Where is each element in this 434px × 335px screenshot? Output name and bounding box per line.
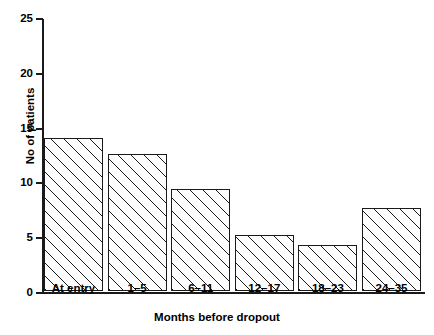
y-tick-label: 5 [27, 231, 33, 243]
plot-area: 0510152025 [42, 19, 425, 293]
y-tick-mark [36, 128, 43, 130]
y-tick-mark [36, 182, 43, 184]
bar-chart-figure: No of patients 0510152025 At entry1–56–1… [0, 0, 434, 335]
x-tick-label-2: 6–11 [165, 282, 236, 294]
bar-2 [171, 189, 230, 291]
y-tick-label: 15 [20, 122, 33, 134]
bar-1 [108, 154, 167, 291]
y-tick-mark [36, 18, 43, 20]
x-tick-label-0: At entry [38, 282, 109, 294]
bar-5 [362, 208, 421, 291]
x-axis-title: Months before dropout [0, 311, 434, 323]
bar-0 [44, 138, 103, 291]
x-tick-label-3: 12–17 [229, 282, 300, 294]
y-tick-mark [36, 237, 43, 239]
y-tick-label: 0 [27, 286, 33, 298]
x-tick-label-4: 18–23 [292, 282, 363, 294]
y-tick-label: 20 [20, 67, 33, 79]
y-tick-label: 10 [20, 176, 33, 188]
x-tick-label-5: 24–35 [356, 282, 427, 294]
y-tick-mark [36, 73, 43, 75]
x-tick-label-1: 1–5 [102, 282, 173, 294]
y-tick-label: 25 [20, 12, 33, 24]
